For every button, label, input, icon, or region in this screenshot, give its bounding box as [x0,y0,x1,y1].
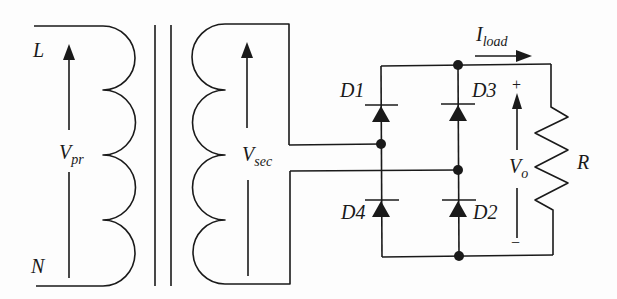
label-i-load: Iload [476,24,508,49]
v-primary-sub: pr [71,152,83,167]
circuit-schematic [0,0,617,299]
label-v-out: Vo [509,156,528,181]
label-resistor: R [577,152,589,172]
label-d3: D3 [472,80,496,100]
vo-arrowhead-icon [512,93,522,109]
label-v-primary: Vpr [59,142,84,167]
secondary-to-bridge-wires [289,144,458,171]
label-neutral: N [31,256,44,276]
circuit-diagram: L N Vpr Vsec Iload D1 D3 D4 D2 + − Vo R [0,0,617,299]
label-v-secondary: Vsec [242,144,272,169]
v-out-main: V [509,155,521,177]
node-top [453,60,463,70]
v-primary-main: V [59,141,71,163]
vpr-arrowhead-icon [63,44,75,60]
label-line: L [33,40,44,60]
label-plus: + [512,77,521,93]
node-d3-d2 [453,165,463,175]
node-d1-d4 [376,139,386,149]
vsec-arrowhead-icon [241,42,253,58]
label-d1: D1 [340,80,364,100]
transformer-core [155,25,171,286]
v-out-sub: o [521,166,528,181]
diode-d3-icon [449,105,467,121]
diode-d1-icon [372,106,390,122]
iload-arrowhead-icon [516,50,532,62]
voltage-arrow-shafts [69,55,520,278]
v-secondary-main: V [242,143,254,165]
diode-d2-icon [449,201,467,217]
v-secondary-sub: sec [254,154,272,169]
node-bottom [454,251,464,261]
label-minus: − [511,235,520,251]
diode-d4-icon [372,201,390,217]
i-load-main: I [476,23,483,45]
label-d2: D2 [473,202,497,222]
secondary-winding [192,24,290,284]
label-d4: D4 [341,202,365,222]
i-load-sub: load [483,34,508,49]
primary-winding [34,26,135,286]
